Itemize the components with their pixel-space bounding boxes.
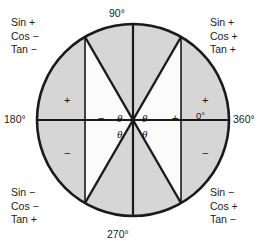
sign-axis-right: + [172,112,178,124]
quadrant-bottom-left-cos: Cos − [11,200,39,214]
theta-label-upper-left: θ [117,112,122,124]
sign-upper-left: + [64,94,70,106]
quadrant-label-bottom-right: Sin − Cos + Tan − [210,186,238,227]
quadrant-top-right-sin: Sin + [210,16,238,30]
quadrant-bottom-left-sin: Sin − [11,186,39,200]
quadrant-label-bottom-left: Sin − Cos − Tan + [11,186,39,227]
unit-circle-diagram: Sin + Cos − Tan − Sin + Cos + Tan + Sin … [0,0,273,249]
quadrant-bottom-right-cos: Cos + [210,200,238,214]
quadrant-label-top-right: Sin + Cos + Tan + [210,16,238,57]
quadrant-bottom-right-sin: Sin − [210,186,238,200]
quadrant-top-left-sin: Sin + [11,16,39,30]
sign-axis-left: − [98,112,104,124]
angle-label-90: 90° [109,7,125,19]
quadrant-top-left-cos: Cos − [11,30,39,44]
quadrant-top-left-tan: Tan − [11,43,39,57]
angle-label-360: 360° [233,113,255,125]
theta-label-lower-right: θ [142,128,147,140]
angle-label-0: 0° [196,110,205,121]
sign-lower-left: − [64,147,70,159]
quadrant-top-right-tan: Tan + [210,43,238,57]
quadrant-bottom-right-tan: Tan − [210,213,238,227]
quadrant-bottom-left-tan: Tan + [11,213,39,227]
quadrant-top-right-cos: Cos + [210,30,238,44]
angle-label-180: 180° [4,113,26,125]
angle-label-270: 270° [107,228,129,240]
sign-lower-right: − [202,147,208,159]
sign-upper-right: + [202,94,208,106]
theta-label-lower-left: θ [117,128,122,140]
quadrant-label-top-left: Sin + Cos − Tan − [11,16,39,57]
theta-label-upper-right: θ [142,112,147,124]
